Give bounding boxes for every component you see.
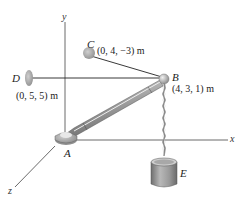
ball-joint-b [159, 74, 169, 84]
point-b-coords: (4, 3, 1) m [172, 84, 214, 94]
boom-ab [67, 80, 163, 139]
cable-bc [91, 56, 162, 77]
point-a-label: A [64, 148, 71, 159]
ball-socket-a [55, 132, 77, 145]
point-d-label: D [12, 73, 20, 84]
point-c-label: C [87, 39, 94, 50]
z-axis [15, 146, 55, 187]
weight-e [151, 158, 177, 187]
z-axis-label: z [8, 186, 12, 196]
point-c-coords: (0, 4, −3) m [97, 46, 145, 56]
point-e-label: E [180, 168, 187, 179]
point-d-coords: (0, 5, 5) m [16, 91, 58, 101]
support-d [25, 70, 33, 86]
x-axis-label: x [230, 134, 234, 144]
y-axis-label: y [62, 12, 66, 22]
point-b-label: B [172, 72, 179, 83]
